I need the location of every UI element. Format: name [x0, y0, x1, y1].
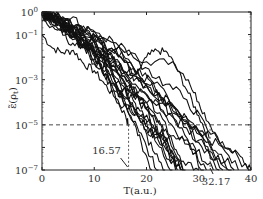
y-tick-label: 10−5: [15, 119, 38, 131]
annotation-label: 16.57: [92, 145, 121, 156]
x-tick-label: 10: [88, 173, 101, 184]
data-curves: [42, 12, 251, 170]
y-tick-label: 10−7: [15, 164, 38, 176]
chart: 010203040 10010−110−310−510−7 T(a.u.) ε̃…: [0, 0, 263, 199]
y-tick-label: 10−3: [15, 74, 38, 86]
x-axis-label: T(a.u.): [123, 185, 156, 196]
y-tick-label: 100: [21, 6, 38, 18]
y-axis-label: ε̃(ρt): [7, 87, 20, 109]
y-tick-label: 10−1: [15, 29, 38, 41]
x-tick-label: 20: [140, 173, 153, 184]
x-tick-label: 40: [245, 173, 258, 184]
x-tick-label: 0: [39, 173, 45, 184]
annotation-label: 32.17: [202, 176, 231, 187]
